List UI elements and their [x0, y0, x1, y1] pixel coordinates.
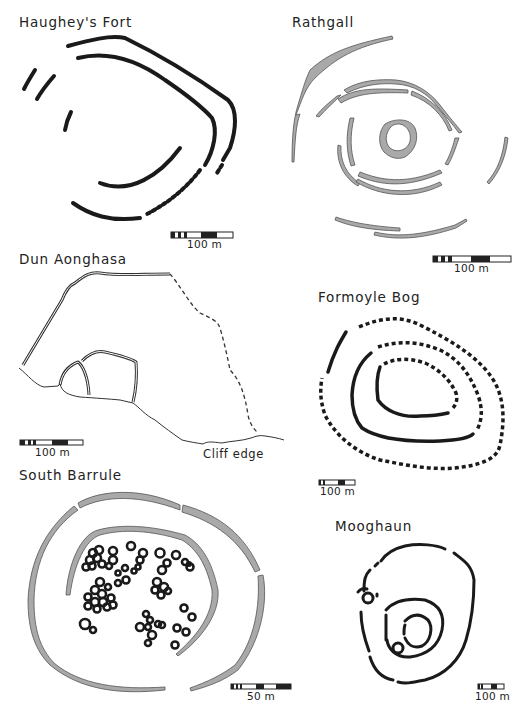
mooghaun-plan — [0, 0, 523, 711]
mooghaun-scale-bar — [478, 684, 504, 689]
mooghaun-scale-label: 100 m — [475, 690, 510, 702]
